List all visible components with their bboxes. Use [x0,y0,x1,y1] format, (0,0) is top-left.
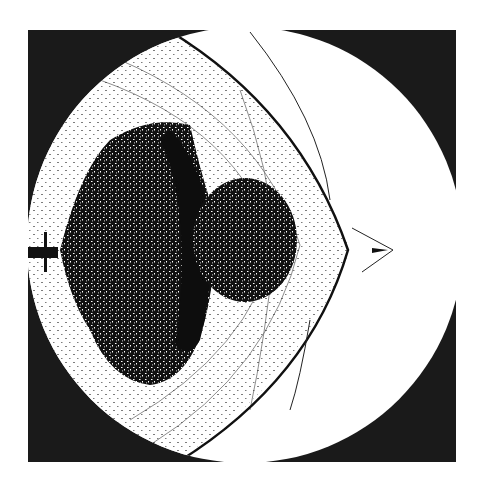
muzzle-flange [44,232,47,272]
muzzle-barrel [28,247,58,258]
shadowgraph-scene [0,0,482,485]
blast-cloud-secondary [193,178,297,302]
